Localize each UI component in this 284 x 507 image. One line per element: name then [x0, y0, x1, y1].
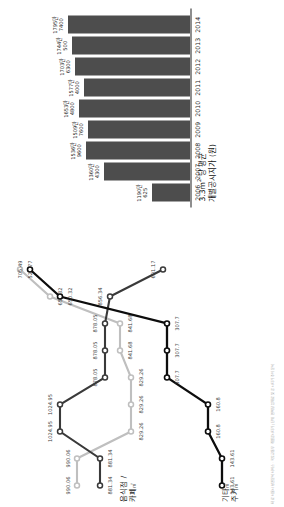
line-point-gita	[129, 429, 134, 434]
line-chart-legend-restaurant-cafe: 음식점 / 카페㎡	[120, 475, 138, 501]
bar-value-man: 1744만	[56, 36, 63, 54]
line-point-restaurant-cafe	[165, 348, 170, 353]
line-point-restaurant-cafe	[206, 402, 211, 407]
bar-chart-baseline	[190, 8, 192, 207]
bar-group-2007[interactable]: 1360만 4300 2007	[0, 163, 190, 181]
bar-chart-title-line2: 개별공시지가 (원)	[208, 144, 218, 201]
bar-group-2009[interactable]: 1509만 7600 2009	[0, 121, 190, 139]
bar-value-won: 4300	[94, 162, 101, 180]
bar-chart: 3.3m2 당 평균 개별공시지가 (원) 1190만 625 2006 136…	[0, 0, 284, 207]
bar-value-won: 7600	[78, 120, 85, 138]
bar-value-won: 7400	[58, 15, 65, 33]
line-point-label: 881.34	[107, 476, 113, 494]
bar-year-label: 2008	[194, 142, 201, 158]
line-point-label: 841.68	[127, 314, 133, 332]
source-note: 자료 서울시 상권분석서비스 · 국토교통부 개별공시지가 | 단위 면적당 임…	[271, 3, 275, 503]
line-point-label: 841.68	[127, 341, 133, 359]
bar-value-label: 1653만 4800	[63, 99, 77, 117]
table-row[interactable]	[86, 142, 190, 160]
legend-item-label: 음식점 /	[119, 475, 128, 501]
bar-year-label: 2010	[194, 100, 201, 116]
bar-value-man: 1190만	[136, 183, 143, 201]
line-point-jugeo	[58, 429, 63, 434]
line-point-jugeo	[58, 402, 63, 407]
infographic-poster: 990.06 990.06 829.26 829.26 829.26 841.6…	[0, 0, 284, 507]
bar-group-2012[interactable]: 1703만 6300 2012	[0, 58, 190, 76]
line-point-jugeo	[98, 483, 103, 488]
line-point-gita	[118, 321, 123, 326]
line-point-jugeo	[161, 267, 166, 272]
bar-value-man: 1703만	[59, 57, 66, 75]
line-point-jugeo	[98, 456, 103, 461]
bar-year-label: 2009	[194, 121, 201, 137]
legend-item-unit: ㎡	[131, 482, 136, 487]
table-row[interactable]	[84, 79, 190, 97]
bar-value-won: 9600	[76, 141, 83, 159]
line-point-label: 143.61	[229, 449, 235, 467]
bar-year-label: 2012	[194, 58, 201, 74]
line-point-label: 1024.95	[47, 393, 53, 414]
line-point-jugeo	[103, 375, 108, 380]
bar-value-man: 1795만	[52, 15, 59, 33]
bar-group-2010[interactable]: 1653만 4800 2010	[0, 100, 190, 118]
bar-group-2013[interactable]: 1744만 500 2013	[0, 37, 190, 55]
line-point-restaurant-cafe	[206, 429, 211, 434]
line-point-label: 650.32	[67, 287, 73, 305]
bar-value-man: 1536만	[70, 141, 77, 159]
bar-value-won: 4800	[69, 99, 76, 117]
table-row[interactable]	[75, 58, 190, 76]
line-chart: 990.06 990.06 829.26 829.26 829.26 841.6…	[0, 207, 284, 507]
bar-year-label: 2013	[194, 37, 201, 53]
line-point-restaurant-cafe	[28, 267, 33, 272]
bar-value-label: 1509만 7600	[72, 120, 86, 138]
line-point-restaurant-cafe	[165, 321, 170, 326]
line-point-jugeo	[103, 321, 108, 326]
line-point-label: 878.05	[92, 368, 98, 386]
table-row[interactable]	[152, 184, 190, 202]
bar-value-label: 1190만 625	[136, 183, 150, 201]
line-point-label: 1024.95	[47, 420, 53, 441]
table-row[interactable]	[88, 121, 190, 139]
bar-year-label: 2014	[194, 16, 201, 32]
line-point-label: 856.34	[97, 287, 103, 305]
line-point-label: 160.8	[215, 397, 221, 412]
line-chart-legend-primary: 기타㎡ 주거㎡	[222, 482, 240, 501]
bar-value-label: 1703만 6300	[59, 57, 73, 75]
bar-value-label: 1795만 7400	[52, 15, 66, 33]
line-point-restaurant-cafe	[220, 456, 225, 461]
bar-year-label: 2006	[194, 184, 201, 200]
bar-year-label: 2007	[194, 163, 201, 179]
legend-item-label: 주거	[230, 487, 239, 501]
line-series-gita: 990.06 990.06 829.26 829.26 829.26 841.6…	[18, 260, 145, 494]
line-point-label: 990.06	[65, 476, 71, 494]
line-point-gita	[75, 483, 80, 488]
line-point-gita	[129, 402, 134, 407]
bar-value-label: 1360만 4300	[88, 162, 102, 180]
bar-value-label: 1577만 4000	[68, 78, 82, 96]
bar-group-2008[interactable]: 1536만 9600 2008	[0, 142, 190, 160]
table-row[interactable]	[72, 37, 190, 55]
bar-value-won: 625	[142, 183, 149, 201]
line-chart-svg: 990.06 990.06 829.26 829.26 829.26 841.6…	[0, 207, 284, 507]
line-point-restaurant-cafe	[58, 294, 63, 299]
bar-value-man: 1360만	[88, 162, 95, 180]
line-point-label: 307.7	[174, 343, 180, 358]
line-point-gita	[129, 375, 134, 380]
line-point-jugeo	[103, 348, 108, 353]
line-point-label: 878.05	[92, 314, 98, 332]
table-row[interactable]	[79, 100, 190, 118]
legend-item-unit: ㎡	[233, 482, 238, 487]
legend-item-label: 기타	[221, 487, 230, 501]
bar-group-2011[interactable]: 1577만 4000 2011	[0, 79, 190, 97]
line-point-label: 829.26	[138, 422, 144, 440]
bar-value-won: 500	[62, 36, 69, 54]
table-row[interactable]	[68, 16, 190, 34]
legend-item-jugeo: 주거㎡	[231, 482, 240, 501]
table-row[interactable]	[104, 163, 190, 181]
line-point-label: 829.26	[138, 368, 144, 386]
bar-group-2014[interactable]: 1795만 7400 2014	[0, 16, 190, 34]
line-point-label: 160.8	[215, 424, 221, 439]
line-point-label: 307.7	[174, 370, 180, 385]
bar-group-2006[interactable]: 1190만 625 2006	[0, 184, 190, 202]
line-point-label: 878.05	[92, 341, 98, 359]
